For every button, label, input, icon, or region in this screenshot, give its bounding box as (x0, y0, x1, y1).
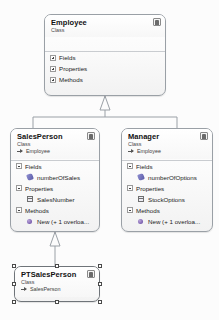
section-label: Properties (59, 63, 87, 74)
section-row-properties[interactable]: Properties (122, 183, 212, 194)
class-badge-icon (87, 270, 95, 278)
expander-minus-icon[interactable] (16, 163, 22, 169)
selection-handle-top-left[interactable] (12, 264, 16, 268)
base-class-row: Employee (128, 148, 207, 156)
class-kind: Class (51, 27, 160, 34)
base-class-name: Employee (137, 148, 161, 156)
base-class-name: SalesPerson (30, 286, 61, 294)
section-row-fields[interactable]: Fields (45, 52, 165, 63)
member-row-field[interactable]: numberOfSales (11, 172, 99, 183)
property-icon (137, 195, 145, 203)
section-row-methods[interactable]: Methods (11, 205, 99, 216)
selection-handle-top-center[interactable] (55, 264, 59, 268)
section-row-properties[interactable]: Properties (45, 63, 165, 74)
section-label: Fields (136, 161, 153, 172)
class-badge-icon (153, 18, 161, 26)
base-class-row: SalesPerson (21, 286, 94, 294)
base-class-row: Employee (17, 148, 94, 156)
expander-plus-icon[interactable] (50, 66, 56, 72)
property-icon (26, 195, 34, 203)
member-name: StockOptions (148, 194, 185, 205)
selection-handle-bottom-left[interactable] (12, 300, 16, 304)
expander-minus-icon[interactable] (16, 207, 22, 213)
member-name: numberOfSales (37, 172, 80, 183)
class-badge-icon (87, 132, 95, 140)
base-class-arrow-icon (21, 286, 28, 293)
class-shape-ptsalesperson[interactable]: PTSalesPerson Class SalesPerson (14, 266, 100, 302)
class-name: SalesPerson (17, 132, 94, 141)
member-row-field[interactable]: numberOfOptions (122, 172, 212, 183)
class-kind: Class (17, 141, 94, 148)
member-name: numberOfOptions (148, 172, 197, 183)
base-class-arrow-icon (17, 148, 24, 155)
expander-minus-icon[interactable] (127, 207, 133, 213)
expander-minus-icon[interactable] (127, 163, 133, 169)
selection-handle-bottom-center[interactable] (55, 300, 59, 304)
base-class-arrow-icon (128, 148, 135, 155)
base-class-name: Employee (26, 148, 50, 156)
class-header-ptsalesperson[interactable]: PTSalesPerson Class SalesPerson (15, 267, 99, 297)
class-kind: Class (21, 279, 94, 286)
section-label: Fields (25, 161, 42, 172)
class-body-salesperson: Fields numberOfSales Properties SalesNum… (11, 161, 99, 229)
class-body-manager: Fields numberOfOptions Properties StockO… (122, 161, 212, 229)
class-shape-employee[interactable]: Employee Class Fields Properties Methods (44, 14, 166, 96)
class-header-salesperson[interactable]: SalesPerson Class Employee (11, 129, 99, 159)
section-row-fields[interactable]: Fields (122, 161, 212, 172)
class-badge-icon (200, 132, 208, 140)
class-header-employee[interactable]: Employee Class (45, 15, 165, 37)
section-label: Methods (136, 205, 160, 216)
inheritance-arrowhead-salesperson (50, 232, 60, 246)
field-icon (26, 173, 34, 181)
section-row-fields[interactable]: Fields (11, 161, 99, 172)
member-row-method[interactable]: New (+ 1 overloa... (122, 216, 212, 227)
section-label: Properties (25, 183, 53, 194)
section-label: Methods (25, 205, 49, 216)
selection-handle-middle-left[interactable] (12, 282, 16, 286)
field-icon (137, 173, 145, 181)
member-row-property[interactable]: StockOptions (122, 194, 212, 205)
class-diagram-canvas[interactable]: Employee Class Fields Properties Methods… (0, 0, 219, 320)
class-kind: Class (128, 141, 207, 148)
method-icon (26, 217, 34, 225)
class-body-employee: Fields Properties Methods (45, 52, 165, 87)
selection-handle-bottom-right[interactable] (98, 300, 102, 304)
section-row-methods[interactable]: Methods (122, 205, 212, 216)
class-shape-manager[interactable]: Manager Class Employee Fields numberOfOp… (121, 128, 213, 232)
member-name: SalesNumber (37, 194, 75, 205)
section-row-properties[interactable]: Properties (11, 183, 99, 194)
class-name: Employee (51, 18, 160, 27)
expander-plus-icon[interactable] (50, 55, 56, 61)
selection-handle-top-right[interactable] (98, 264, 102, 268)
expander-minus-icon[interactable] (16, 185, 22, 191)
section-label: Properties (136, 183, 164, 194)
inheritance-arrowhead-employee (100, 96, 110, 110)
member-row-property[interactable]: SalesNumber (11, 194, 99, 205)
section-label: Fields (59, 52, 76, 63)
class-shape-salesperson[interactable]: SalesPerson Class Employee Fields number… (10, 128, 100, 232)
selection-handle-middle-right[interactable] (98, 282, 102, 286)
section-label: Methods (59, 74, 83, 85)
member-name: New (+ 1 overloa... (37, 216, 89, 227)
expander-plus-icon[interactable] (50, 77, 56, 83)
class-name: PTSalesPerson (21, 270, 94, 279)
class-header-manager[interactable]: Manager Class Employee (122, 129, 212, 159)
method-icon (137, 217, 145, 225)
class-name: Manager (128, 132, 207, 141)
section-row-methods[interactable]: Methods (45, 74, 165, 85)
expander-minus-icon[interactable] (127, 185, 133, 191)
member-name: New (+ 1 overloa... (148, 216, 200, 227)
member-row-method[interactable]: New (+ 1 overloa... (11, 216, 99, 227)
